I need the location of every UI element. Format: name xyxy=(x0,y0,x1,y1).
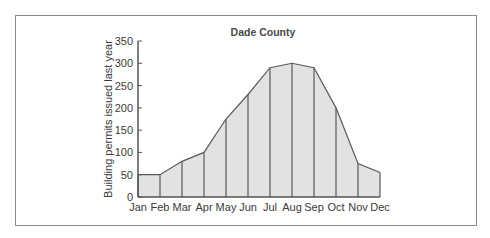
x-tick-label: Jul xyxy=(263,201,277,213)
area-fill xyxy=(138,63,380,197)
y-tick-label: 100 xyxy=(115,146,133,158)
x-tick-label: Oct xyxy=(327,201,344,213)
area-chart: Dade County Building permits issued last… xyxy=(0,0,490,238)
x-tick-label: Feb xyxy=(151,201,170,213)
x-tick-label: Jun xyxy=(239,201,257,213)
x-tick-label: Sep xyxy=(304,201,324,213)
y-tick-label: 150 xyxy=(115,124,133,136)
y-tick-label: 300 xyxy=(115,57,133,69)
y-tick-label: 200 xyxy=(115,102,133,114)
y-tick-label: 350 xyxy=(115,35,133,47)
x-tick-label: Jan xyxy=(129,201,147,213)
plot-area xyxy=(138,63,380,197)
x-tick-label: May xyxy=(216,201,237,213)
x-tick-label: Aug xyxy=(282,201,302,213)
y-axis-label: Building permits issued last year xyxy=(102,40,114,198)
y-axis: 050100150200250300350 xyxy=(115,35,142,203)
x-tick-label: Dec xyxy=(370,201,390,213)
y-tick-label: 250 xyxy=(115,80,133,92)
x-axis: JanFebMarAprMayJunJulAugSepOctNovDec xyxy=(129,197,390,213)
y-tick-label: 50 xyxy=(121,169,133,181)
x-tick-label: Nov xyxy=(348,201,368,213)
x-tick-label: Mar xyxy=(173,201,192,213)
x-tick-label: Apr xyxy=(195,201,212,213)
chart-title: Dade County xyxy=(231,26,296,38)
